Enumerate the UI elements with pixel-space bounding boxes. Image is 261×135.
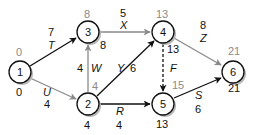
edge-Z-duration: 8 bbox=[200, 19, 206, 31]
edge-U-duration: 4 bbox=[44, 98, 50, 110]
edges bbox=[30, 32, 221, 104]
node-4-late-time: 13 bbox=[167, 43, 179, 55]
edge-W-activity: W bbox=[91, 62, 103, 74]
node-2: 2 bbox=[77, 93, 101, 117]
node-4-early-time: 13 bbox=[156, 8, 168, 20]
node-6-late-time: 21 bbox=[228, 82, 240, 94]
node-1-label: 1 bbox=[17, 66, 23, 78]
node-1: 1 bbox=[9, 61, 33, 85]
node-2-early-time: 4 bbox=[92, 80, 98, 92]
node-5-early-time: 15 bbox=[172, 79, 184, 91]
node-3: 3 bbox=[77, 21, 101, 45]
node-6-label: 6 bbox=[230, 66, 236, 78]
edge-4-6-Z bbox=[174, 38, 221, 65]
node-2-late-time: 4 bbox=[84, 119, 90, 131]
edge-X-duration: 5 bbox=[120, 7, 126, 19]
edge-S-duration: 6 bbox=[195, 103, 201, 115]
edge-1-2-U bbox=[30, 78, 76, 99]
edge-Z-activity: Z bbox=[199, 32, 208, 44]
edge-S-activity: S bbox=[195, 89, 203, 101]
edge-W-duration: 4 bbox=[77, 62, 83, 74]
node-3-early-time: 8 bbox=[84, 8, 90, 20]
node-5: 5 bbox=[152, 93, 176, 117]
node-3-late-time: 8 bbox=[100, 39, 106, 51]
node-2-label: 2 bbox=[85, 98, 91, 110]
edge-T-activity: T bbox=[48, 39, 56, 51]
node-4-label: 4 bbox=[160, 26, 166, 38]
node-3-label: 3 bbox=[85, 26, 91, 38]
edge-F-activity: F bbox=[170, 62, 178, 74]
node-5-label: 5 bbox=[160, 98, 166, 110]
edge-R-activity: R bbox=[116, 105, 124, 117]
edge-X-activity: X bbox=[119, 19, 128, 31]
edge-Y-activity: Y bbox=[117, 62, 125, 74]
node-6-early-time: 21 bbox=[228, 45, 240, 57]
node-5-late-time: 13 bbox=[156, 118, 168, 130]
edge-U-activity: U bbox=[43, 86, 51, 98]
node-1-early-time: 0 bbox=[16, 46, 22, 58]
node-4: 4 bbox=[152, 21, 176, 45]
edge-R-duration: 4 bbox=[116, 119, 122, 131]
node-1-late-time: 0 bbox=[16, 86, 22, 98]
activity-network-diagram: 1 2 3 4 5 6 0 0 4 bbox=[0, 0, 261, 135]
edge-T-duration: 7 bbox=[48, 26, 54, 38]
edge-Y-duration: 6 bbox=[130, 62, 136, 74]
